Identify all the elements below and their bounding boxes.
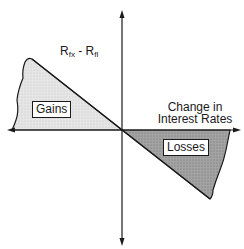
x-label-line2: Interest Rates <box>150 113 240 125</box>
y-axis-up-arrow-icon <box>120 10 125 18</box>
y-label-r1: R <box>60 44 69 58</box>
gains-region <box>12 58 122 130</box>
x-axis-left-arrow-icon <box>7 128 15 133</box>
losses-label: Losses <box>163 139 209 156</box>
y-axis-label: Rfx - Rfl <box>60 45 98 61</box>
x-axis-label: Change in Interest Rates <box>150 101 240 125</box>
y-label-sub-fl: fl <box>94 50 98 59</box>
y-axis-down-arrow-icon <box>120 238 125 246</box>
gains-label: Gains <box>32 101 71 118</box>
y-label-r2: R <box>86 44 95 58</box>
y-label-separator: - <box>75 44 86 58</box>
x-axis-right-arrow-icon <box>233 128 241 133</box>
